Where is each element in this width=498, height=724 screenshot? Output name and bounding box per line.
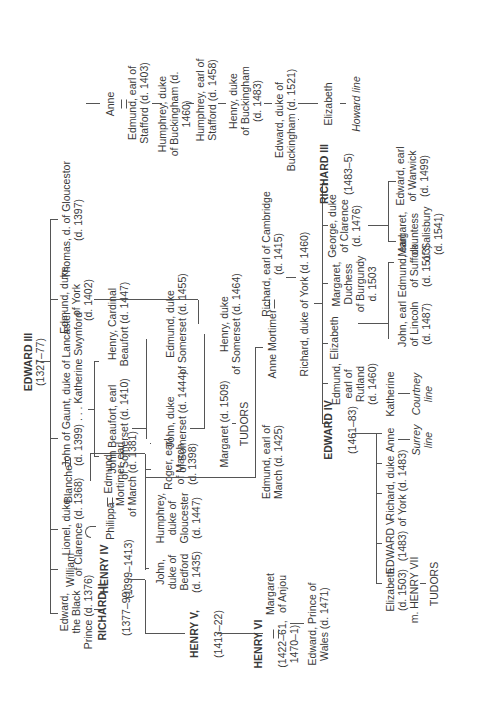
connector (398, 439, 410, 440)
node-edward-iv: EDWARD IV (1461–83) (310, 400, 370, 460)
node-anne-stafford: Anne (104, 92, 116, 117)
node-blanche: Blanche (62, 465, 74, 503)
node-humphrey-stafford: Humphrey, earl of Stafford (d. 1458) (194, 59, 218, 142)
family-tree-diagram: EDWARD III (1327–77) Edward, the Black P… (0, 0, 498, 724)
connector (36, 361, 50, 362)
henry-v-name: HENRY V, (188, 610, 200, 658)
connector (90, 454, 91, 481)
node-tudors-1: TUDORS (238, 402, 250, 446)
node-thomas-gloucester: Thomas, d. of Gloucestor (d. 1397) (60, 161, 84, 279)
connector (255, 348, 256, 478)
node-elizabeth-howard: Elizabeth (322, 82, 334, 125)
node-john-lincoln: John, earl of Lincoln (d. 1487) (396, 301, 432, 347)
node-henry-buckingham: Henry, duke of Buckingham (d. 1483) (227, 66, 263, 135)
henry-iv-dates: (1399–1413) (122, 539, 134, 599)
connector (145, 469, 151, 470)
connector (50, 299, 58, 300)
connector (90, 526, 96, 527)
node-margaret-salisbury: Margaret, countess of Salisbury (d. 1541… (396, 207, 444, 262)
connector (190, 428, 204, 429)
node-anne-mortimer: Anne Mortimer (266, 310, 278, 379)
line-crossing (85, 526, 91, 538)
connector (298, 119, 299, 120)
connector (290, 623, 304, 624)
node-edmund-somerset: Edmund, duke of Somerset (d. 1455) (164, 273, 188, 375)
connector (264, 103, 272, 104)
connector (50, 569, 58, 570)
node-henry-vi: HENRY VI (1422–61, 1470–1) (240, 619, 312, 668)
node-henry-iv: HENRY IV (1399–1413) (86, 539, 146, 599)
connector (145, 580, 146, 634)
node-john-bedford: John, duke of Bedford (d. 1435) (154, 551, 202, 593)
connector (146, 339, 147, 439)
edward-iii-dates: (1327–77) (34, 338, 46, 386)
node-elizabeth-york-sister: Elizabeth (328, 316, 340, 359)
edward-iv-children-bus (376, 434, 377, 584)
marriage-symbol (273, 630, 279, 639)
node-richard-iii: RICHARD III (1483–5) (306, 144, 366, 204)
connector (145, 470, 146, 570)
york-children-bus (322, 184, 323, 424)
connector (50, 438, 58, 439)
edward-iii-name: EDWARD III (22, 333, 34, 391)
henry-vi-dates: (1422–61, 1470–1) (276, 619, 300, 668)
connector (388, 263, 389, 339)
henry-v-dates: (1413–22) (212, 610, 224, 658)
node-john-of-gaunt: John of Gaunt, duke of Lancaster (d. 139… (60, 311, 84, 466)
connector (94, 456, 99, 457)
node-john-beaufort: John Beaufort, earl of Somerset (d. 1410… (106, 378, 130, 480)
connector (94, 361, 99, 362)
richard-iii-name: RICHARD III (318, 144, 330, 204)
node-surrey-line: Surrey line (410, 425, 434, 456)
edward-iv-name: EDWARD IV (322, 400, 334, 460)
connector (145, 477, 255, 478)
connector (376, 433, 382, 434)
node-howard-line: Howard line (350, 76, 362, 131)
connector (358, 323, 388, 324)
node-anne: Anne (384, 428, 396, 453)
node-edward-wales: Edward, Prince of Wales (d. 1471) (306, 583, 330, 666)
connector (204, 334, 205, 429)
connector (50, 529, 58, 530)
node-henry-somerset: Henry, duke of Somerset (d. 1464) (218, 273, 242, 375)
node-margaret-burgundy: Margaret, Duchess of Burgundy d. 1503 (330, 256, 378, 313)
henry-vi-name: HENRY VI (252, 619, 264, 668)
node-richard-york-1483: Richard, duke of York (d. 1483) (384, 449, 408, 526)
node-richard-york: Richard, duke of York (d. 1460) (298, 232, 310, 377)
connector (218, 103, 226, 104)
node-john-somerset: John, duke of Somerset (d. 1444) (164, 371, 188, 473)
connector (388, 182, 389, 242)
connector (376, 463, 382, 464)
node-edmund-stafford: Edmund, earl of Stafford (d. 1403) (126, 62, 150, 144)
edward-iv-dates: (1461–83) (346, 400, 358, 460)
node-margaret-anjou: Margaret of Anjou (264, 573, 288, 615)
connector (255, 347, 263, 348)
node-henry-beaufort: Henry, Cardinal Beaufort (d. 1447) (106, 282, 130, 367)
henry-iv-name: HENRY IV (98, 539, 110, 599)
node-edmund-rutland: Edmund, earl of Rutland (d. 1460) (330, 363, 378, 405)
connector (198, 300, 199, 324)
connector (368, 225, 388, 226)
node-tudors-2: TUDORS (428, 562, 440, 606)
connector (340, 103, 346, 104)
connector (232, 423, 236, 424)
richard-iii-dates: (1483–5) (342, 144, 354, 204)
connector (298, 103, 318, 104)
connector (150, 443, 151, 444)
node-katherine: Katherine (384, 372, 396, 417)
node-courtney-line: Courtney line (410, 373, 434, 416)
node-margaret-beaufort: Margaret (d. 1509) (218, 381, 230, 468)
node-edward-buckingham: Edward, duke of Buckingham (d. 1521) (273, 69, 297, 172)
connector (128, 579, 145, 580)
connector (50, 219, 58, 220)
connector (376, 493, 382, 494)
node-edward-iii: EDWARD III (1327–77) (10, 333, 46, 391)
connector (132, 428, 146, 429)
connector (186, 103, 194, 104)
generation1-bus (50, 220, 51, 614)
node-humphrey-buckingham: Humphrey, duke of Buckingham (d. 1460) (156, 57, 192, 171)
connector (352, 433, 376, 434)
node-humphrey-gloucester: Humphrey, duke of Gloucester (d. 1447) (154, 493, 202, 544)
connector (420, 583, 426, 584)
connector (322, 383, 328, 384)
